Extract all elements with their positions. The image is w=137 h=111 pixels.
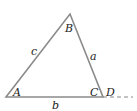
vertex-label-c: C — [90, 86, 99, 99]
point-label-d: D — [105, 86, 115, 99]
vertex-label-a: A — [12, 86, 21, 99]
triangle-abc — [6, 14, 103, 97]
side-label-c: c — [31, 45, 37, 58]
side-label-a: a — [90, 50, 97, 63]
vertex-label-b: B — [64, 22, 73, 35]
triangle-diagram: B A C D c a b — [0, 0, 137, 111]
side-label-b: b — [52, 99, 59, 111]
